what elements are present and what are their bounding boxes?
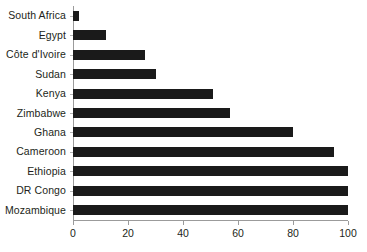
plot-area (73, 6, 348, 220)
category-label: Ghana (0, 127, 66, 138)
category-label: Cameroon (0, 146, 66, 157)
category-label: Egypt (0, 30, 66, 41)
bar (73, 30, 106, 40)
x-axis-tick (293, 221, 294, 225)
category-label: Ethiopia (0, 166, 66, 177)
x-axis-tick-label: 0 (70, 227, 76, 239)
y-axis-tick (70, 152, 73, 153)
y-axis-tick (70, 35, 73, 36)
y-axis-tick (70, 16, 73, 17)
x-axis-tick-label: 80 (287, 227, 299, 239)
x-axis-tick-label: 100 (339, 227, 357, 239)
category-label: DR Congo (0, 185, 66, 196)
x-axis-tick-label: 20 (122, 227, 134, 239)
y-axis-tick (70, 171, 73, 172)
bar (73, 89, 213, 99)
y-axis-tick (70, 210, 73, 211)
bar-chart: South AfricaEgyptCôte d'IvoireSudanKenya… (0, 0, 367, 252)
category-label: Sudan (0, 69, 66, 80)
category-label: Côte d'Ivoire (0, 49, 66, 60)
category-label: Mozambique (0, 205, 66, 216)
bar (73, 186, 348, 196)
x-axis-tick-label: 60 (232, 227, 244, 239)
x-axis-tick (73, 221, 74, 225)
bar (73, 50, 145, 60)
x-axis-tick (128, 221, 129, 225)
y-axis-tick (70, 113, 73, 114)
bar (73, 147, 334, 157)
category-label: Zimbabwe (0, 108, 66, 119)
x-axis-tick (348, 221, 349, 225)
category-label: South Africa (0, 10, 66, 21)
bar (73, 166, 348, 176)
x-axis-line (73, 220, 348, 221)
y-axis-tick (70, 55, 73, 56)
bar (73, 11, 79, 21)
bar (73, 205, 348, 215)
category-label: Kenya (0, 88, 66, 99)
bar (73, 108, 230, 118)
y-axis-tick (70, 132, 73, 133)
x-axis-tick (183, 221, 184, 225)
category-axis-labels: South AfricaEgyptCôte d'IvoireSudanKenya… (0, 6, 66, 220)
bar (73, 69, 156, 79)
bar (73, 127, 293, 137)
x-axis-tick-label: 40 (177, 227, 189, 239)
y-axis-tick (70, 74, 73, 75)
y-axis-tick (70, 191, 73, 192)
x-axis-tick (238, 221, 239, 225)
y-axis-tick (70, 94, 73, 95)
